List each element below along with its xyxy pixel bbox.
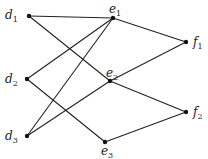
node-f1: [184, 40, 188, 44]
edge-e3-f2: [105, 112, 186, 142]
label-e3: e3: [101, 145, 113, 159]
label-letter: d: [5, 129, 13, 143]
node-f2: [184, 110, 188, 114]
edge-e2-f1: [110, 42, 186, 81]
edge-d3-e1: [27, 18, 113, 136]
label-d3: d3: [5, 130, 18, 147]
label-subscript: 3: [108, 151, 113, 159]
label-subscript: 2: [197, 112, 202, 121]
bipartite-graph-diagram: d1d2d3e1e2e3f1f2: [0, 0, 208, 159]
label-f2: f2: [193, 106, 203, 123]
edge-d1-e1: [29, 16, 113, 18]
label-subscript: 1: [197, 42, 202, 51]
label-letter: d: [5, 72, 13, 86]
label-d2: d2: [5, 73, 18, 90]
label-e1: e1: [109, 3, 121, 20]
edge-e1-f1: [113, 18, 186, 42]
label-subscript: 2: [13, 79, 18, 88]
node-d3: [25, 134, 29, 138]
graph-edges: [0, 0, 208, 159]
label-subscript: 1: [13, 15, 18, 24]
label-subscript: 3: [13, 136, 18, 145]
edge-e2-f2: [110, 81, 186, 112]
label-d1: d1: [5, 9, 18, 26]
node-d2: [25, 77, 29, 81]
label-e2: e2: [106, 67, 118, 84]
edge-d2-e1: [27, 18, 113, 79]
node-d1: [27, 14, 31, 18]
label-subscript: 2: [113, 73, 118, 82]
label-letter: d: [5, 8, 13, 22]
label-subscript: 1: [116, 9, 121, 18]
label-f1: f1: [193, 36, 203, 53]
